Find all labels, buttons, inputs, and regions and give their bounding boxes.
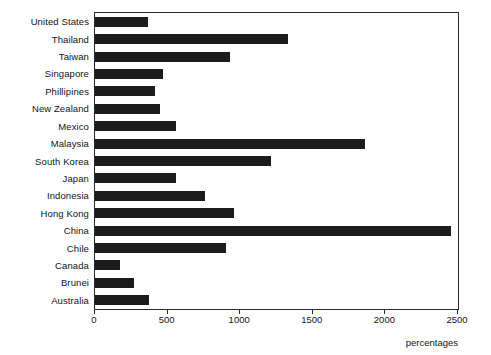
category-label: Canada <box>0 260 89 271</box>
bar <box>95 208 234 218</box>
bar <box>95 260 120 270</box>
category-label: Japan <box>0 173 89 184</box>
bar-chart: United StatesThailandTaiwanSingaporePhil… <box>0 0 491 355</box>
category-label: New Zealand <box>0 103 89 114</box>
category-label: United States <box>0 16 89 27</box>
bar <box>95 121 176 131</box>
x-axis-label: percentages <box>406 337 458 349</box>
bar <box>95 173 176 183</box>
category-axis-labels: United StatesThailandTaiwanSingaporePhil… <box>0 12 89 310</box>
bars-layer <box>95 13 458 309</box>
bar <box>95 17 148 27</box>
bar <box>95 86 155 96</box>
category-label: Chile <box>0 243 89 254</box>
value-axis-ticks: 05001000150020002500 <box>0 310 491 330</box>
category-label: Malaysia <box>0 138 89 149</box>
bar <box>95 34 288 44</box>
bar <box>95 52 230 62</box>
category-label: South Korea <box>0 156 89 167</box>
category-label: Phillipines <box>0 86 89 97</box>
x-tick-label: 1500 <box>301 314 322 326</box>
category-label: Thailand <box>0 34 89 45</box>
bar <box>95 243 226 253</box>
bar <box>95 69 163 79</box>
bar <box>95 104 160 114</box>
bar <box>95 295 149 305</box>
x-tick-label: 500 <box>159 314 175 326</box>
category-label: Singapore <box>0 68 89 79</box>
x-tick-label: 0 <box>91 314 96 326</box>
category-label: Mexico <box>0 121 89 132</box>
bar <box>95 191 205 201</box>
x-tick-label: 2000 <box>374 314 395 326</box>
x-tick-label: 1000 <box>229 314 250 326</box>
category-label: Indonesia <box>0 190 89 201</box>
bar <box>95 226 451 236</box>
category-label: Taiwan <box>0 51 89 62</box>
category-label: Hong Kong <box>0 208 89 219</box>
bar <box>95 278 134 288</box>
x-tick-label: 2500 <box>446 314 467 326</box>
category-label: Australia <box>0 295 89 306</box>
bar <box>95 139 365 149</box>
category-label: China <box>0 225 89 236</box>
bar <box>95 156 271 166</box>
category-label: Brunei <box>0 277 89 288</box>
